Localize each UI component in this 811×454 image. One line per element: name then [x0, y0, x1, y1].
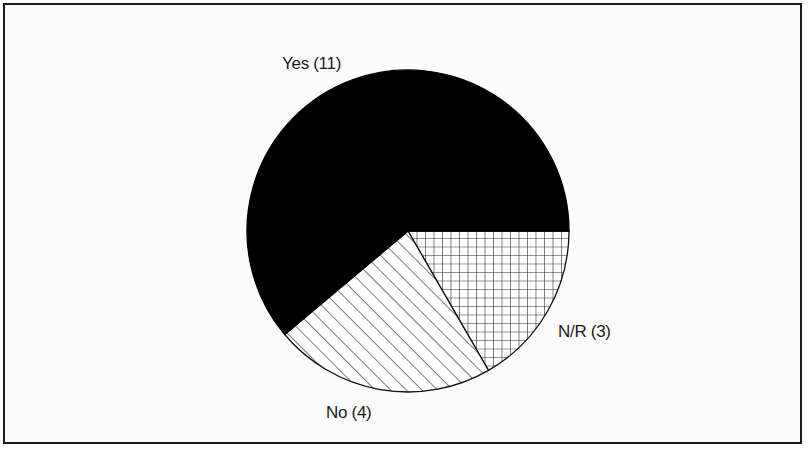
- pie-chart: [0, 0, 811, 454]
- label-yes: Yes (11): [282, 54, 341, 74]
- label-nr: N/R (3): [558, 322, 611, 342]
- label-no: No (4): [326, 403, 371, 423]
